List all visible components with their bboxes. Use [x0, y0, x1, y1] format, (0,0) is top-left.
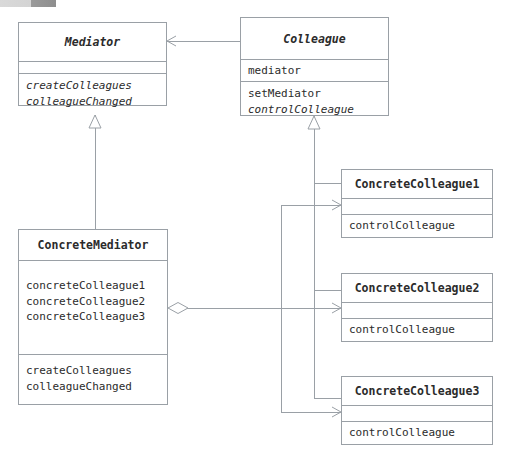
arrowhead-to-mediator — [167, 36, 176, 46]
arrowhead-to-concrete-colleague-1 — [332, 200, 341, 210]
method-create-colleagues: createColleagues — [26, 78, 159, 94]
arrowhead-to-concrete-colleague-3 — [332, 407, 341, 417]
triangle-generalization-colleague — [308, 116, 320, 129]
field-concrete-colleague-1: concreteColleague1 — [26, 278, 160, 294]
class-methods-concrete-colleague-3: controlColleague — [342, 421, 492, 444]
class-title-concrete-mediator: ConcreteMediator — [19, 230, 167, 260]
class-box-concrete-colleague-1[interactable]: ConcreteColleague1 controlColleague — [341, 169, 493, 238]
method-control-colleague-cc3: controlColleague — [349, 425, 485, 441]
class-attributes-concrete-colleague-2 — [342, 302, 492, 318]
method-set-mediator: setMediator — [248, 86, 381, 102]
class-box-mediator[interactable]: Mediator createColleagues colleagueChang… — [18, 22, 167, 106]
class-box-concrete-colleague-3[interactable]: ConcreteColleague3 controlColleague — [341, 376, 493, 445]
class-methods-concrete-mediator: createColleagues colleagueChanged — [19, 354, 167, 405]
method-control-colleague-cc1: controlColleague — [349, 218, 485, 234]
method-colleague-changed: colleagueChanged — [26, 94, 159, 110]
class-title-mediator: Mediator — [19, 23, 166, 61]
class-methods-concrete-colleague-2: controlColleague — [342, 318, 492, 341]
class-title-concrete-colleague-3: ConcreteColleague3 — [342, 377, 492, 405]
triangle-generalization-mediator — [89, 115, 101, 128]
class-box-colleague[interactable]: Colleague mediator setMediator controlCo… — [240, 17, 389, 116]
field-concrete-colleague-3: concreteColleague3 — [26, 309, 160, 325]
class-box-concrete-colleague-2[interactable]: ConcreteColleague2 controlColleague — [341, 273, 493, 342]
class-title-concrete-colleague-1: ConcreteColleague1 — [342, 170, 492, 198]
class-title-concrete-colleague-2: ConcreteColleague2 — [342, 274, 492, 302]
class-box-concrete-mediator[interactable]: ConcreteMediator concreteColleague1 conc… — [18, 229, 168, 405]
uml-diagram-canvas: Mediator : horizontal at y=41 --> Mediat… — [0, 0, 505, 460]
class-methods-mediator: createColleagues colleagueChanged — [19, 73, 166, 106]
class-title-colleague: Colleague — [241, 18, 388, 59]
method-control-colleague-abstract: controlColleague — [248, 102, 381, 118]
diamond-concrete-mediator-aggregation — [168, 303, 188, 314]
class-attributes-concrete-colleague-3 — [342, 405, 492, 421]
class-methods-concrete-colleague-1: controlColleague — [342, 214, 492, 237]
method-create-colleagues-impl: createColleagues — [26, 363, 160, 379]
field-mediator: mediator — [248, 63, 381, 79]
class-attributes-colleague: mediator — [241, 59, 388, 81]
arrowhead-to-concrete-colleague-2 — [332, 303, 341, 313]
class-attributes-mediator — [19, 61, 166, 73]
field-concrete-colleague-2: concreteColleague2 — [26, 294, 160, 310]
class-methods-colleague: setMediator controlColleague — [241, 81, 388, 117]
method-colleague-changed-impl: colleagueChanged — [26, 379, 160, 395]
class-attributes-concrete-colleague-1 — [342, 198, 492, 214]
window-chrome-chip — [0, 0, 56, 7]
class-attributes-concrete-mediator: concreteColleague1 concreteColleague2 co… — [19, 260, 167, 354]
method-control-colleague-cc2: controlColleague — [349, 322, 485, 338]
